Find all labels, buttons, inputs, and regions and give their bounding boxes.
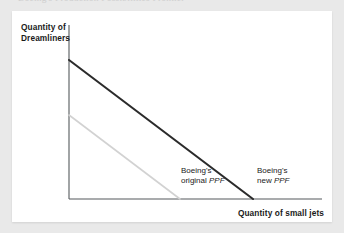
original-ppf-line	[69, 115, 180, 199]
original-ppf-label-line2: original PPF	[181, 176, 225, 186]
new-ppf-label-prefix: new	[257, 176, 274, 185]
new-ppf-label-line1: Boeing's	[257, 166, 289, 176]
new-ppf-label-acronym: PPF	[274, 176, 290, 185]
original-ppf-label: Boeing's original PPF	[181, 166, 225, 186]
new-ppf-label: Boeing's new PPF	[257, 166, 289, 186]
new-ppf-line	[69, 60, 253, 199]
y-axis-title-line2: Dreamliners	[21, 33, 70, 44]
original-ppf-label-line1: Boeing's	[181, 166, 225, 176]
y-axis-title: Quantity of Dreamliners	[21, 22, 70, 43]
figure-caption-strip: Boeing's Production Possibilities Fronti…	[0, 0, 344, 11]
original-ppf-label-prefix: original	[181, 176, 209, 185]
x-axis-title: Quantity of small jets	[238, 208, 324, 219]
original-ppf-label-acronym: PPF	[209, 176, 225, 185]
figure-card: Quantity of Dreamliners Quantity of smal…	[12, 11, 332, 222]
figure-caption-text: Boeing's Production Possibilities Fronti…	[18, 0, 185, 3]
y-axis-title-line1: Quantity of	[21, 22, 70, 33]
plot-area: Quantity of Dreamliners Quantity of smal…	[12, 11, 332, 222]
new-ppf-label-line2: new PPF	[257, 176, 289, 186]
